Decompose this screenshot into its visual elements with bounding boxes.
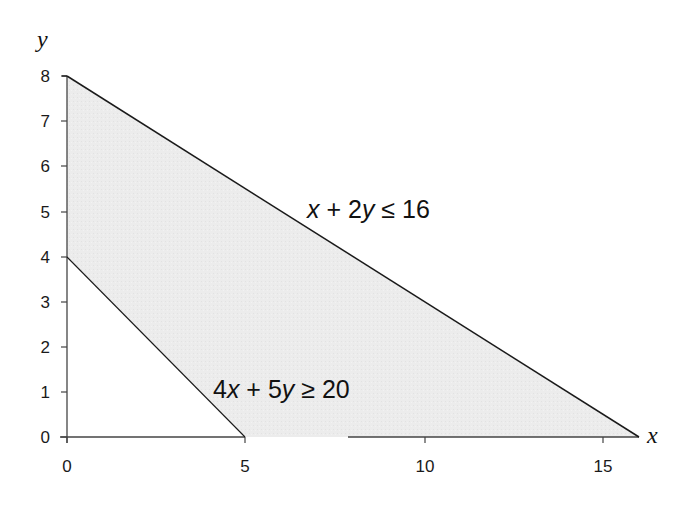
y-tick-label: 0 bbox=[41, 428, 50, 447]
y-tick-label: 4 bbox=[41, 248, 50, 267]
y-tick-label: 8 bbox=[41, 67, 50, 86]
x-tick-label: 0 bbox=[62, 457, 71, 476]
x-axis-ticks bbox=[67, 437, 603, 443]
y-tick-label: 6 bbox=[41, 157, 50, 176]
y-tick-labels: 0 1 2 3 4 5 6 7 8 bbox=[41, 67, 50, 447]
y-tick-label: 7 bbox=[41, 112, 50, 131]
constraint-label-1: x + 2y ≤ 16 bbox=[306, 195, 430, 223]
y-tick-label: 3 bbox=[41, 293, 50, 312]
y-tick-label: 2 bbox=[41, 338, 50, 357]
y-axis-label: y bbox=[35, 26, 48, 52]
y-tick-label: 5 bbox=[41, 203, 50, 222]
constraint-label-2: 4x + 5y ≥ 20 bbox=[213, 375, 350, 403]
y-tick-label: 1 bbox=[41, 383, 50, 402]
x-tick-label: 10 bbox=[416, 457, 435, 476]
x-tick-labels: 0 5 10 15 bbox=[62, 457, 612, 476]
x-axis-label: x bbox=[646, 422, 658, 448]
x-tick-label: 15 bbox=[594, 457, 613, 476]
y-axis-ticks bbox=[61, 76, 67, 437]
x-tick-label: 5 bbox=[240, 457, 249, 476]
feasible-region-chart: 0 1 2 3 4 5 6 7 8 0 5 10 15 y x x + 2y ≤… bbox=[0, 0, 681, 511]
